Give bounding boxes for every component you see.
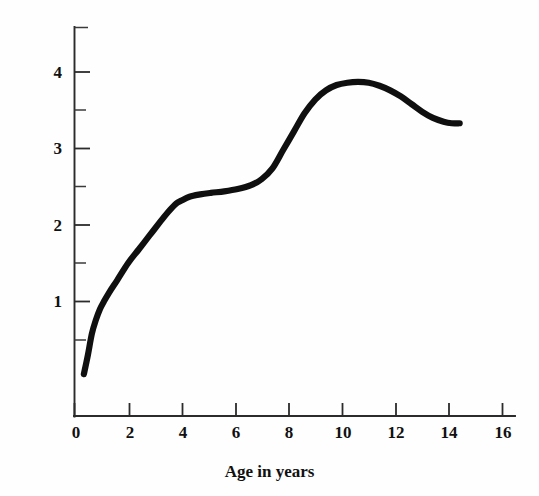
plot-area [0,0,539,496]
chart-figure: 0 2 4 6 8 10 12 14 16 4 3 2 1 Age in yea… [0,0,539,496]
x-tick-label-6: 6 [232,424,241,441]
x-tick-label-14: 14 [441,424,458,441]
y-tick-label-4: 4 [40,64,62,81]
y-tick-label-1: 1 [40,293,62,310]
x-tick-label-10: 10 [335,424,352,441]
x-tick-label-4: 4 [179,424,188,441]
data-curve-hours-per-day [84,82,460,374]
x-tick-label-8: 8 [285,424,294,441]
x-tick-label-12: 12 [388,424,405,441]
x-tick-label-16: 16 [495,424,512,441]
y-tick-label-3: 3 [40,140,62,157]
x-tick-label-2: 2 [126,424,135,441]
y-tick-label-2: 2 [40,217,62,234]
x-tick-label-0: 0 [72,424,81,441]
x-major-ticks [75,403,503,416]
x-axis-title: Age in years [0,462,539,482]
